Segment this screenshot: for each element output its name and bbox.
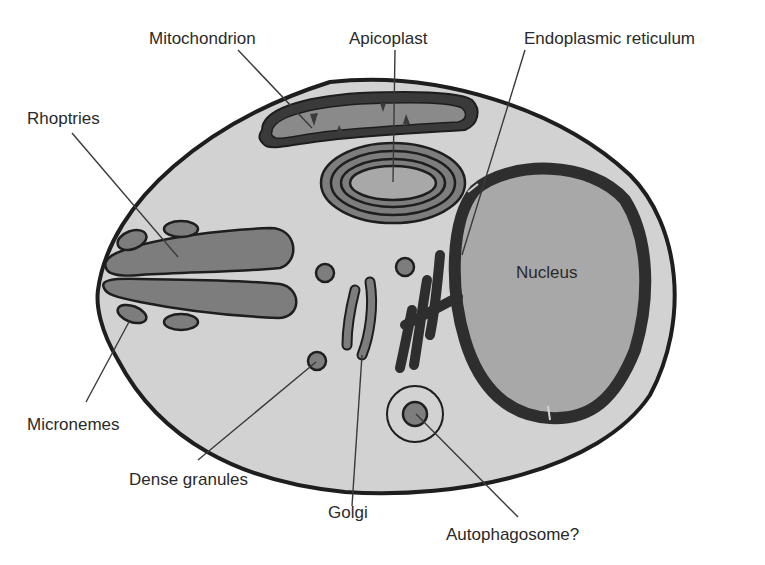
- label-micronemes: Micronemes: [27, 415, 120, 434]
- label-golgi: Golgi: [328, 503, 368, 522]
- cell-diagram: Mitochondrion Apicoplast Endoplasmic ret…: [0, 0, 765, 565]
- nucleus-organelle: [455, 169, 645, 420]
- label-dense-granules: Dense granules: [129, 470, 248, 489]
- label-endoplasmic-reticulum: Endoplasmic reticulum: [524, 29, 695, 48]
- label-autophagosome: Autophagosome?: [446, 525, 579, 544]
- label-rhoptries: Rhoptries: [27, 109, 100, 128]
- label-mitochondrion: Mitochondrion: [149, 29, 256, 48]
- label-apicoplast: Apicoplast: [349, 29, 428, 48]
- label-nucleus: Nucleus: [516, 263, 577, 282]
